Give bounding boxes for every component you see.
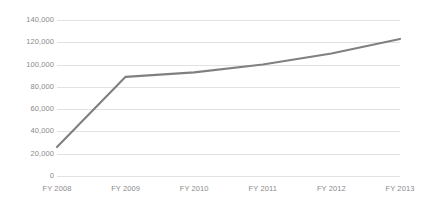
gridline xyxy=(57,20,400,21)
gridline xyxy=(57,176,400,177)
gridline xyxy=(57,154,400,155)
y-axis-tick: 40,000 xyxy=(0,126,54,136)
y-axis-tick: 100,000 xyxy=(0,60,54,70)
y-axis-tick-label: 100,000 xyxy=(2,60,54,69)
y-axis-tick-label: 140,000 xyxy=(2,15,54,24)
x-axis-tick-label: FY 2010 xyxy=(180,184,209,193)
y-axis-tick-label: 80,000 xyxy=(2,82,54,91)
y-axis-tick-label: 60,000 xyxy=(2,104,54,113)
series-line-layer xyxy=(0,0,422,210)
gridline xyxy=(57,109,400,110)
y-axis-tick-label: 40,000 xyxy=(2,126,54,135)
y-axis-tick-label: 0 xyxy=(2,171,54,180)
gridline xyxy=(57,131,400,132)
y-axis-tick-label: 120,000 xyxy=(2,37,54,46)
y-axis-tick: 140,000 xyxy=(0,15,54,25)
y-axis-tick: 20,000 xyxy=(0,149,54,159)
gridline xyxy=(57,65,400,66)
gridline xyxy=(57,42,400,43)
x-axis-tick-label: FY 2013 xyxy=(386,184,415,193)
x-axis-tick-label: FY 2011 xyxy=(249,184,277,193)
gridline xyxy=(57,87,400,88)
x-axis-tick-label: FY 2008 xyxy=(43,184,72,193)
y-axis-tick: 0 xyxy=(0,171,54,181)
y-axis-tick: 80,000 xyxy=(0,82,54,92)
y-axis-tick: 60,000 xyxy=(0,104,54,114)
y-axis-tick: 120,000 xyxy=(0,37,54,47)
x-axis-tick-label: FY 2012 xyxy=(317,184,346,193)
line-chart: 020,00040,00060,00080,000100,000120,0001… xyxy=(0,0,422,210)
y-axis-tick-label: 20,000 xyxy=(2,149,54,158)
x-axis-tick-label: FY 2009 xyxy=(111,184,140,193)
